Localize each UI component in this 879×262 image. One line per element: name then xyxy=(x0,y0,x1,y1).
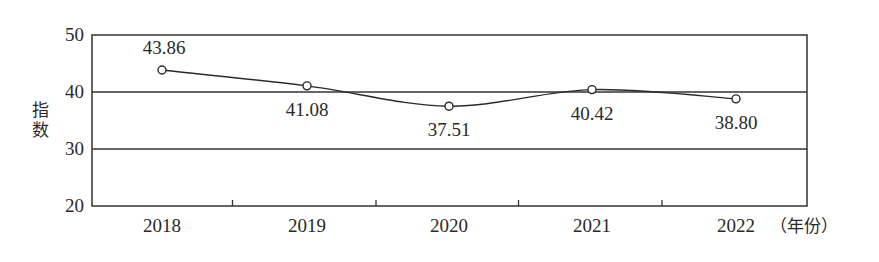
y-tick-label: 30 xyxy=(65,138,84,159)
y-axis-tick-labels: 20304050 xyxy=(65,24,84,216)
data-point-markers xyxy=(158,66,740,110)
data-label: 43.86 xyxy=(143,37,186,58)
x-axis-ticks xyxy=(233,200,663,206)
line-chart: 20304050 20182019202020212022 43.8641.08… xyxy=(0,0,879,262)
x-tick-label: 2018 xyxy=(143,215,181,236)
data-point-marker xyxy=(588,86,596,94)
data-point-marker xyxy=(158,66,166,74)
data-point-marker xyxy=(732,95,740,103)
data-label: 41.08 xyxy=(286,99,329,120)
data-label: 38.80 xyxy=(715,112,758,133)
x-axis-unit-label: （年份） xyxy=(770,217,838,236)
x-tick-label: 2021 xyxy=(573,215,611,236)
x-tick-label: 2019 xyxy=(288,215,326,236)
data-labels: 43.8641.0837.5140.4238.80 xyxy=(143,37,758,140)
data-point-marker xyxy=(445,102,453,110)
data-label: 37.51 xyxy=(428,119,471,140)
y-axis-label: 指数 xyxy=(30,100,50,140)
x-tick-label: 2022 xyxy=(717,215,755,236)
x-axis-tick-labels: 20182019202020212022 xyxy=(143,215,755,236)
x-tick-label: 2020 xyxy=(430,215,468,236)
data-point-marker xyxy=(303,82,311,90)
y-tick-label: 40 xyxy=(65,81,84,102)
series-line xyxy=(162,70,736,106)
y-tick-label: 50 xyxy=(65,24,84,45)
y-tick-label: 20 xyxy=(65,195,84,216)
data-label: 40.42 xyxy=(571,103,614,124)
